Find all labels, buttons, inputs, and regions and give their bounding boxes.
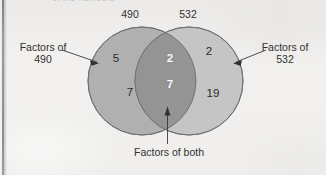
- member-intersection-1: 2: [160, 52, 180, 64]
- label-top-right-532: 532: [168, 9, 208, 21]
- member-right-only-2: 19: [203, 87, 223, 99]
- label-top-left-490: 490: [110, 9, 150, 21]
- callout-factors-of-490: Factors of 490: [6, 42, 80, 65]
- member-left-only-1: 5: [106, 52, 126, 64]
- callout-factors-of-532: Factors of 532: [248, 42, 322, 65]
- venn-diagram-figure: of the numbers: [0, 0, 326, 175]
- member-right-only-1: 2: [199, 45, 219, 57]
- member-intersection-2: 7: [160, 78, 180, 90]
- member-left-only-2: 7: [120, 86, 140, 98]
- callout-factors-of-both: Factors of both: [104, 147, 234, 159]
- venn-stage: 490 532 Factors of 490 Factors of 532 Fa…: [0, 0, 326, 175]
